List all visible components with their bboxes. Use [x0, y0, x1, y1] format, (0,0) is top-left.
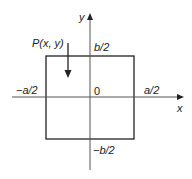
origin-label: 0: [94, 86, 100, 97]
point-arrow-head-icon: [65, 70, 72, 78]
left-edge-label: −a/2: [16, 85, 38, 96]
x-axis-label: x: [177, 103, 183, 114]
y-axis-label: y: [79, 12, 85, 23]
point-label: P(x, y): [32, 38, 64, 49]
x-axis-arrow-icon: [177, 94, 184, 100]
diagram-canvas: y x 0 P(x, y) b/2 −b/2 −a/2 a/2: [0, 0, 192, 179]
y-axis-arrow-icon: [87, 13, 93, 20]
bottom-edge-label: −b/2: [93, 145, 115, 156]
right-edge-label: a/2: [144, 85, 159, 96]
top-edge-label: b/2: [94, 42, 109, 53]
